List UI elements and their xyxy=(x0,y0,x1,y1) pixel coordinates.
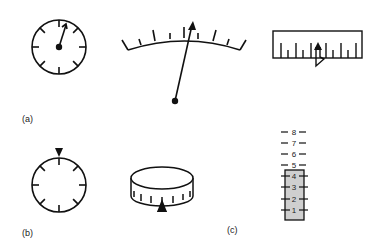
fixed-pointer-dial xyxy=(32,158,86,212)
linear-pointer-arrow-icon xyxy=(314,42,322,50)
fixed-pointer-triangle-icon xyxy=(55,148,63,157)
vertical-scale: 8 7 6 5 4 3 2 1 xyxy=(281,128,308,220)
label-c: (c) xyxy=(227,225,238,235)
arc-pointer-arrow-icon xyxy=(188,21,196,30)
scale-number-8: 8 xyxy=(292,128,297,137)
scale-number-3: 3 xyxy=(292,183,297,192)
dial-hub-icon xyxy=(56,44,62,50)
arc-meter-pivot-icon xyxy=(172,98,178,104)
arc-meter xyxy=(122,25,246,101)
label-b: (b) xyxy=(22,228,33,238)
scale-number-4: 4 xyxy=(292,172,297,181)
scale-number-5: 5 xyxy=(292,161,297,170)
scale-number-7: 7 xyxy=(292,139,297,148)
scale-number-2: 2 xyxy=(292,195,297,204)
scale-number-1: 1 xyxy=(292,206,297,215)
displays-diagram: (a) (b) xyxy=(0,0,381,248)
label-a: (a) xyxy=(22,114,33,124)
scale-number-6: 6 xyxy=(292,150,297,159)
